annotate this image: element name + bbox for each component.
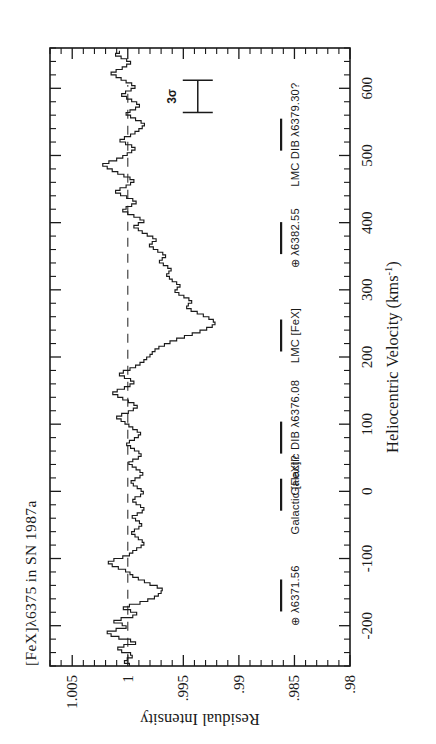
spectrum-trace <box>103 51 215 666</box>
x-tick-label: -200 <box>359 612 375 640</box>
annotation-galactic-dib: Galactic DIB λ6376.08 <box>289 380 301 496</box>
error-bar-label: 3σ <box>165 89 179 104</box>
y-axis-ticks <box>50 48 350 666</box>
y-tick-label: .98 <box>342 675 358 694</box>
figure-rotator: -200-1000100200300400500600 1.0051.995.9… <box>0 0 436 744</box>
identification-labels: ⊕ λ6371.56Galactic [FeX]?Galactic DIB λ6… <box>289 83 301 626</box>
x-tick-label: 200 <box>359 346 375 369</box>
y-tick-label: 1 <box>120 675 136 683</box>
annotation-telluric-6382: ⊕ λ6382.55 <box>289 208 301 268</box>
y-tick-label: 1.005 <box>64 675 80 709</box>
x-axis-ticks <box>50 48 350 666</box>
annotation-lmc-dib: LMC DIB λ6379.30? <box>289 83 301 187</box>
x-tick-label: 300 <box>359 279 375 302</box>
y-axis-tick-labels: 1.0051.995.99.985.98 <box>64 675 358 709</box>
y-axis-label: Residual Intensity <box>139 710 259 729</box>
plot-title: [FeX]λ6375 in SN 1987a <box>22 500 39 666</box>
x-tick-label: -100 <box>359 545 375 573</box>
three-sigma-error-bar: 3σ <box>165 80 213 112</box>
x-tick-label: 500 <box>359 144 375 167</box>
spectrum-figure: -200-1000100200300400500600 1.0051.995.9… <box>0 0 436 744</box>
x-tick-label: 600 <box>359 77 375 100</box>
annotation-lmc-fex: LMC [FeX] <box>289 308 301 363</box>
y-tick-label: .985 <box>286 675 302 701</box>
plot-frame-rect <box>50 48 350 666</box>
annotation-telluric-6371: ⊕ λ6371.56 <box>289 565 301 625</box>
x-tick-label: 100 <box>359 413 375 436</box>
x-tick-label: 0 <box>359 488 375 496</box>
y-tick-label: .99 <box>231 675 247 694</box>
x-axis-label: Heliocentric Velocity (kms-1) <box>383 261 402 453</box>
x-axis-tick-labels: -200-1000100200300400500600 <box>359 77 375 639</box>
y-tick-label: .995 <box>175 675 191 701</box>
x-tick-label: 400 <box>359 211 375 234</box>
plot-frame <box>50 48 350 666</box>
